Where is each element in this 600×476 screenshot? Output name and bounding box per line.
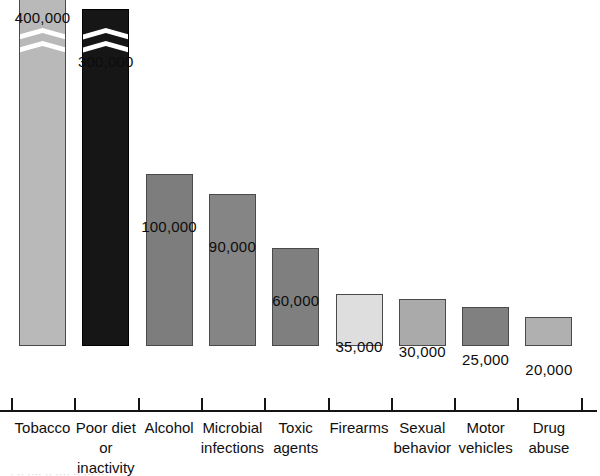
- x-axis-line: [0, 410, 597, 412]
- bar: [209, 194, 256, 346]
- x-axis-tick: [581, 398, 583, 411]
- bar: [462, 307, 509, 346]
- bar-value-label: 90,000: [193, 238, 272, 255]
- x-axis-tick: [11, 398, 13, 411]
- category-labels: TobaccoPoor diet or inactivityAlcoholMic…: [0, 414, 600, 470]
- bar: [146, 174, 193, 346]
- axis-break-chevron: [19, 28, 66, 54]
- bar-chart: 400,000300,000100,00090,00060,00035,0003…: [0, 0, 600, 476]
- bar-value-label: 60,000: [256, 292, 335, 309]
- x-axis-tick: [328, 398, 330, 411]
- category-label: Drug abuse: [511, 418, 586, 458]
- bar-value-label: 20,000: [509, 361, 588, 378]
- bar-value-label: 400,000: [3, 9, 82, 26]
- x-axis-tick: [264, 398, 266, 411]
- plot-area: 400,000300,000100,00090,00060,00035,0003…: [0, 0, 600, 412]
- caption-sliver: · ·· ···· ·· ···· ·· ··· ··: [10, 468, 250, 476]
- axis-break-chevron: [82, 28, 129, 54]
- x-axis-tick: [201, 398, 203, 411]
- bar: [19, 0, 66, 346]
- bar: [399, 299, 446, 346]
- x-axis-tick: [391, 398, 393, 411]
- x-axis-tick: [138, 398, 140, 411]
- bar-value-label: 300,000: [66, 53, 145, 70]
- x-axis-tick: [74, 398, 76, 411]
- bar: [525, 317, 572, 346]
- x-axis-tick: [454, 398, 456, 411]
- x-axis-tick: [517, 398, 519, 411]
- bar-value-label: 100,000: [130, 218, 209, 235]
